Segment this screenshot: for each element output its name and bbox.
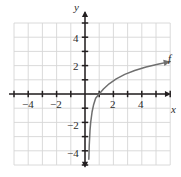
coordinate-plane-svg	[0, 0, 181, 177]
y-axis-label: y	[74, 2, 79, 13]
x-tick-label-4: 4	[138, 99, 144, 110]
y-tick-label-2: 2	[73, 61, 79, 72]
function-curve	[89, 58, 171, 159]
y-axis-arrow-up	[82, 11, 88, 17]
y-tick-label-neg2: −2	[67, 120, 79, 131]
x-tick-label-neg2: −2	[50, 99, 62, 110]
y-tick-label-4: 4	[73, 33, 79, 44]
y-tick-label-neg4: −4	[67, 148, 79, 159]
x-tick-label-neg4: −4	[22, 99, 34, 110]
graph-figure: y x f −4 −2 2 4 4 2 −2 −4	[0, 0, 181, 177]
x-axis-label: x	[171, 104, 176, 115]
curve-label-f: f	[168, 53, 171, 64]
curve-path-f	[89, 62, 170, 160]
x-tick-label-2: 2	[110, 99, 116, 110]
